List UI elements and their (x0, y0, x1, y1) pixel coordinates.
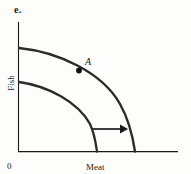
origin-label: 0 (7, 161, 12, 171)
y-axis-label: Fish (6, 63, 16, 103)
shift-arrow-icon (93, 125, 128, 134)
inner-ppf-curve (19, 82, 97, 152)
outer-ppf-curve (19, 48, 135, 152)
x-axis-label: Meat (86, 162, 105, 172)
point-a-marker (76, 68, 82, 74)
ppf-figure: e. A Fish Meat 0 (0, 0, 191, 174)
ppf-plot (0, 0, 191, 174)
point-a-label: A (85, 57, 91, 67)
